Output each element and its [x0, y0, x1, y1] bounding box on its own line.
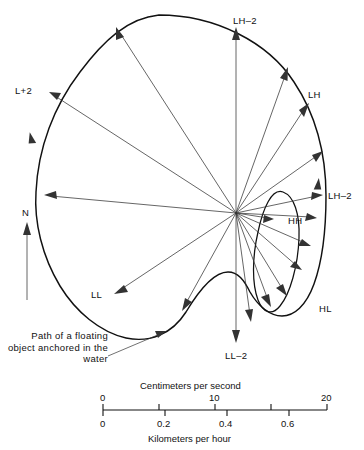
inner-slack-loop: [254, 191, 300, 311]
label-hh: HH: [288, 215, 302, 226]
velocity-vector-group: [44, 27, 323, 343]
label-lh-minus-2-top: LH–2: [233, 15, 257, 26]
scale-tick-bottom-0-6: 0.6: [281, 418, 294, 429]
scale-tick-bottom-0-4: 0.4: [219, 418, 232, 429]
north-label: N: [22, 207, 29, 218]
label-lh-minus-2-right: LH–2: [328, 190, 352, 201]
path-direction-arrow: [26, 131, 36, 144]
scale-tick-top-10: 10: [209, 392, 220, 403]
scale-tick-top-20: 20: [321, 392, 332, 403]
path-direction-arrow-top: [314, 178, 323, 191]
scale-tick-bottom-0-2: 0.2: [157, 418, 170, 429]
scale-tick-top-0: 0: [100, 392, 105, 403]
label-ll: LL: [91, 289, 102, 300]
label-hl: HL: [319, 303, 332, 314]
label-ll-minus-2: LL–2: [225, 350, 247, 361]
scale-bar: [103, 404, 327, 416]
scale-title-cm-per-second: Centimeters per second: [140, 380, 241, 391]
north-arrow: [23, 222, 31, 300]
path-annotation-text: Path of a floating object anchored in th…: [4, 330, 108, 365]
label-l-plus-2: L+2: [15, 85, 32, 96]
label-lh: LH: [308, 89, 321, 100]
scale-tick-bottom-0: 0: [100, 418, 105, 429]
scale-title-km-per-hour: Kilometers per hour: [148, 433, 231, 444]
tidal-current-diagram: LH–2 LH LH–2 HH HL LL–2 LL L+2 N Path of…: [0, 0, 364, 450]
